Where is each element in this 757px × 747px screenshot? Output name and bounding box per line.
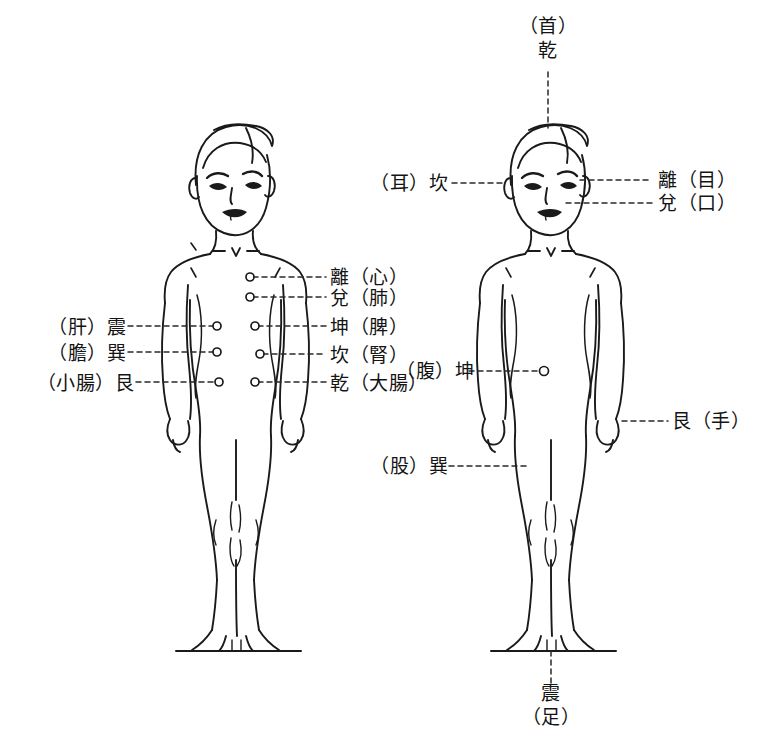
label-top-line1: （首） [508, 14, 588, 38]
label-bottom-line2: （足） [511, 705, 591, 729]
point-qian-dachang [251, 378, 259, 386]
label-bottom-line1: 震 [511, 681, 591, 705]
label-thigh-xun: （股）巽 [370, 455, 448, 477]
point-kan-shen [256, 350, 264, 358]
label-dan-xun: （膽）巽 [0, 342, 126, 364]
label-dui-fei: 兌（肺） [330, 287, 408, 309]
label-xiaochang-gen: （小腸）艮 [0, 372, 134, 394]
label-mouth-dui: 兌（口） [658, 192, 736, 214]
point-gan-zhen [213, 322, 221, 330]
label-eye-li: 離（目） [658, 169, 736, 191]
label-bottom-zhen: 震 （足） [511, 681, 591, 730]
point-kun-pi [251, 322, 259, 330]
label-hand-gen: 艮（手） [672, 410, 750, 432]
point-xiaochang-gen [215, 378, 223, 386]
point-dan-xun [213, 348, 221, 356]
point-dui-fei [246, 293, 254, 301]
label-kun-pi: 坤（脾） [330, 316, 408, 338]
label-ear-kan: （耳）坎 [370, 172, 448, 194]
diagram-canvas: （首） 乾 震 （足） （耳）坎 離（目） 兌（口） 離（心） 兌（肺） 坤（脾… [0, 0, 757, 747]
left-figure-outline [162, 124, 309, 651]
label-li-xin: 離（心） [330, 266, 408, 288]
point-li-xin [246, 273, 254, 281]
point-fu-kun-navel [540, 367, 549, 376]
label-top-qian: （首） 乾 [508, 14, 588, 63]
label-gan-zhen: （肝）震 [0, 316, 126, 338]
label-abdomen-kun: （腹）坤 [396, 360, 474, 382]
label-top-line2: 乾 [508, 38, 588, 62]
